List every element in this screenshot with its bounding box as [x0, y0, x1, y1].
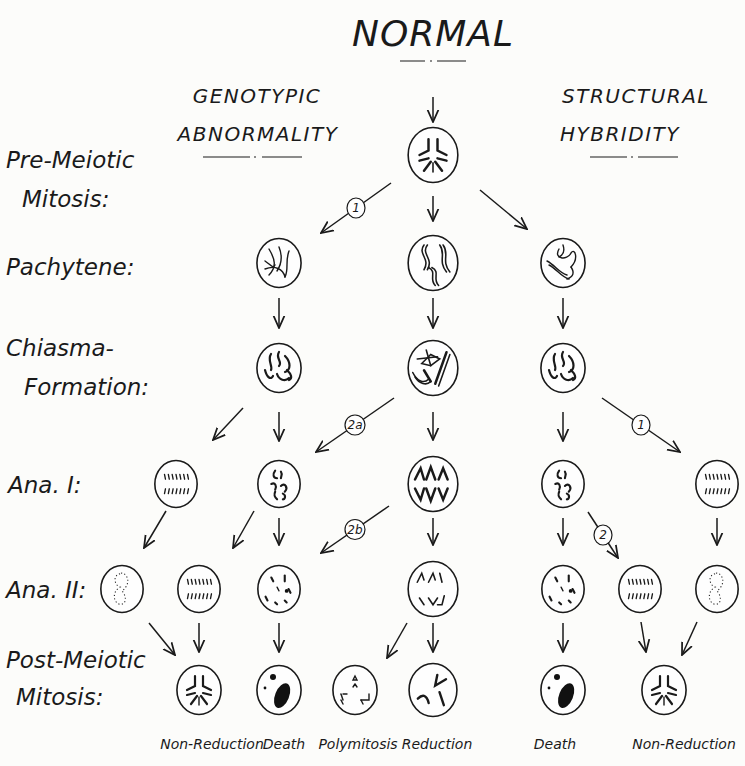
badge-label: 1	[352, 201, 360, 215]
header-left-line2: ABNORMALITY	[176, 122, 339, 146]
header-left-line1: GENOTYPIC	[193, 84, 322, 108]
cell-ana-scattered	[258, 461, 300, 508]
cell-pachytene-loop	[541, 239, 585, 288]
pathway-number-badge: 2b	[345, 520, 365, 540]
arrow	[641, 622, 646, 652]
stage-label-post-meiotic-line2: Mitosis:	[16, 684, 103, 710]
cell-outline	[178, 566, 220, 613]
outcome-label: Death	[263, 736, 305, 752]
stage-label-pre-meiotic-line1: Pre-Meiotic	[6, 147, 135, 173]
outcome-label: Non-Reduction	[632, 736, 736, 752]
cell-restitution-nucleus	[101, 566, 143, 613]
cell-ana2-normal	[408, 561, 458, 616]
stage-label-pachytene: Pachytene:	[6, 254, 134, 280]
arrow: 1	[602, 398, 680, 452]
cell-pachytene-tangled	[257, 239, 301, 288]
cell-outline	[619, 566, 661, 613]
cell-ana-split-many	[619, 566, 661, 613]
pathway-number-badge: 2	[594, 525, 612, 545]
cell-ana-normal	[408, 456, 458, 511]
cell-outline	[542, 566, 584, 613]
pathway-number-badge: 1	[632, 415, 650, 435]
cell-ana-split-many	[696, 461, 738, 508]
cell-death	[257, 666, 301, 715]
header-right-line2: HYBRIDITY	[560, 122, 680, 146]
stage-labels: Pre-Meiotic Mitosis: Pachytene: Chiasma-…	[4, 147, 149, 710]
cell-outline	[408, 340, 458, 395]
arrow	[682, 622, 697, 655]
outcome-label: Reduction	[402, 736, 473, 752]
diagram-title: NORMAL	[352, 13, 514, 54]
cell-pachytene-paired	[408, 235, 458, 290]
arrow	[213, 408, 243, 440]
cell-outline	[258, 461, 300, 508]
badge-label: 2	[599, 528, 607, 542]
cell-chiasma-univalents	[541, 344, 585, 393]
arrow	[480, 190, 527, 229]
arrow	[149, 623, 175, 655]
arrow: 1	[321, 183, 391, 233]
stage-label-post-meiotic-line1: Post-Meiotic	[6, 647, 146, 673]
cell-outline	[257, 239, 301, 288]
cell-outline	[408, 456, 458, 511]
cell-outline	[408, 561, 458, 616]
cell-outline	[642, 666, 686, 715]
cell-ana2-fragments	[542, 566, 584, 613]
badge-label: 2a	[348, 418, 363, 432]
cell-mitosis-normal	[177, 666, 221, 715]
cell-outline	[258, 566, 300, 613]
cell-restitution-nucleus	[696, 566, 738, 613]
cell-outline	[541, 344, 585, 393]
arrow	[233, 511, 254, 548]
cell-outline	[696, 461, 738, 508]
outcome-label: Death	[534, 736, 576, 752]
cell-chiasma-cross	[408, 340, 458, 395]
cell-ana2-fragments	[258, 566, 300, 613]
arrow: 2b	[321, 506, 389, 553]
outcome-label: Non-Reduction	[160, 736, 264, 752]
cell-mitosis-normal	[642, 666, 686, 715]
cell-outline	[409, 663, 457, 716]
stage-label-chiasma-line1: Chiasma-	[6, 335, 114, 361]
cell-ana-split-many	[155, 461, 197, 508]
cell-chiasma-univalents	[257, 344, 301, 393]
arrow	[387, 623, 407, 658]
cell-outline	[333, 666, 377, 715]
cell-mitosis-normal	[408, 127, 458, 182]
header-structural-hybridity: STRUCTURAL HYBRIDITY	[560, 84, 710, 157]
meiosis-pathway-diagram: NORMAL GENOTYPIC ABNORMALITY STRUCTURAL …	[0, 0, 745, 766]
cell-ana-split-many	[178, 566, 220, 613]
cell-outline	[177, 666, 221, 715]
outcome-label: Polymitosis	[318, 736, 397, 752]
cell-ana-scattered	[542, 461, 584, 508]
cell-polymitosis	[333, 666, 377, 715]
arrow	[144, 511, 166, 548]
cell-outline	[408, 127, 458, 182]
badge-label: 2b	[347, 523, 363, 537]
pathway-number-badge: 2a	[345, 415, 365, 435]
stage-label-ana-i: Ana. I:	[6, 472, 82, 498]
header-right-line1: STRUCTURAL	[562, 84, 710, 108]
arrow: 2	[588, 512, 618, 558]
stage-label-chiasma-line2: Formation:	[24, 374, 149, 400]
cell-outline	[257, 344, 301, 393]
arrow: 2a	[316, 398, 394, 452]
pathway-number-badge: 1	[347, 198, 365, 218]
cell-outline	[155, 461, 197, 508]
cell-outline	[542, 461, 584, 508]
header-genotypic-abnormality: GENOTYPIC ABNORMALITY	[176, 84, 339, 157]
badge-label: 1	[637, 418, 645, 432]
cell-reduction	[409, 663, 457, 716]
stage-label-pre-meiotic-line2: Mitosis:	[22, 186, 109, 212]
stage-label-ana-ii: Ana. II:	[4, 577, 86, 603]
cell-death	[541, 666, 585, 715]
outcome-labels: Non-ReductionDeathPolymitosisReductionDe…	[160, 736, 736, 752]
